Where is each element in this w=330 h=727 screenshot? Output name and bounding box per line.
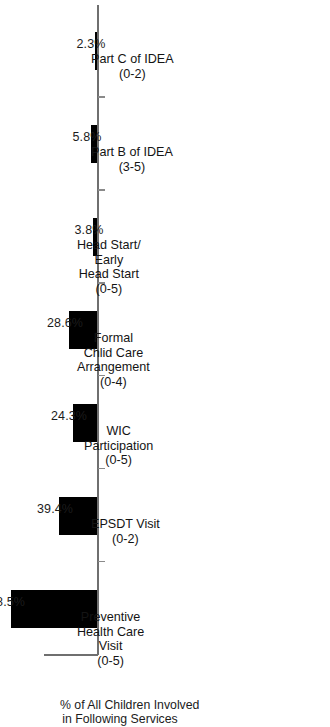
category-label-line: (0-5) [84,453,153,468]
bar-slot: 39.4% [0,469,97,562]
bar-slot: 24.3% [0,376,97,469]
category-label-line: WIC [84,424,153,439]
category-label-line: Head Start [77,267,141,282]
bar-series: 88.5%39.4%24.3%28.6%3.8%5.8%2.3% [0,5,97,655]
bar-value-label: 5.8% [73,130,102,144]
category-label-line: Chlid Care [77,346,150,361]
category-label-line: Part B of IDEA [91,145,173,160]
category-label-line: EPSDT Visit [91,517,160,532]
bar-value-label: 88.5% [0,595,25,609]
category-label: FormalChlid CareArrangement(0-4) [77,331,150,389]
category-label-line: Participation [84,438,153,453]
bar-value-label: 2.3% [76,37,105,51]
bar-value-label: 24.3% [51,409,87,423]
y-axis-label-line-2: in Following Services [60,712,180,726]
bar-value-label: 3.8% [75,223,104,237]
category-label: PreventiveHealth CareVisit(0-5) [77,610,144,668]
category-label-line: (0-5) [77,653,144,668]
category-label-line: (0-4) [77,375,150,390]
y-axis-label: % of All Children Involved in Following … [60,698,180,727]
category-label-line: Preventive [77,610,144,625]
category-label-line: (3-5) [91,160,173,175]
category-label-line: Formal [77,331,150,346]
category-label: EPSDT Visit(0-2) [91,517,160,546]
axis-tick [98,468,105,469]
category-axis-line [97,5,99,655]
category-label: Head Start/EarlyHead Start(0-5) [77,238,141,296]
category-label-line: Early [77,253,141,268]
bar-slot: 5.8% [0,98,97,191]
category-label-line: Head Start/ [77,238,141,253]
bar-value-label: 39.4% [37,502,73,516]
category-label: WICParticipation(0-5) [84,424,153,468]
axis-tick [98,561,105,562]
category-label-line: (0-5) [77,282,141,297]
bar-value-label: 28.6% [47,316,83,330]
category-label-line: (0-2) [91,67,174,82]
category-label-line: Part C of IDEA [91,52,174,67]
bar-slot: 2.3% [0,5,97,98]
category-label-line: (0-2) [91,531,160,546]
axis-tick [98,189,105,190]
axis-tick [98,96,105,97]
category-label: Part C of IDEA(0-2) [91,52,174,81]
category-label-line: Visit [77,639,144,654]
y-axis-label-line-1: % of All Children Involved [60,698,180,712]
category-label-line: Health Care [77,624,144,639]
category-label: Part B of IDEA(3-5) [91,145,173,174]
category-label-line: Arrangement [77,360,150,375]
